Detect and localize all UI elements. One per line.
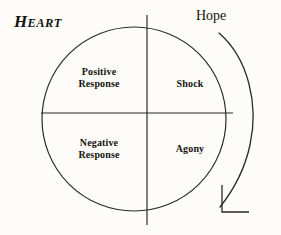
quadrant-label-shock: Shock bbox=[152, 78, 228, 90]
heart-initial-cap: H bbox=[14, 12, 28, 31]
circle-outline-icon bbox=[42, 27, 226, 211]
quadrant-label-positive-response: Positive Response bbox=[62, 66, 136, 90]
diagram-graphics bbox=[0, 0, 281, 235]
axis-label-hope: Hope bbox=[196, 8, 226, 25]
axis-label-heart: HEART bbox=[14, 12, 62, 32]
quadrant-label-negative-response: Negative Response bbox=[62, 137, 136, 161]
heart-smallcaps: EART bbox=[28, 16, 62, 30]
curved-arrow-icon bbox=[219, 33, 253, 207]
diagram-canvas: HEART Hope Positive Response Shock Negat… bbox=[0, 0, 281, 235]
quadrant-label-agony: Agony bbox=[152, 143, 228, 155]
